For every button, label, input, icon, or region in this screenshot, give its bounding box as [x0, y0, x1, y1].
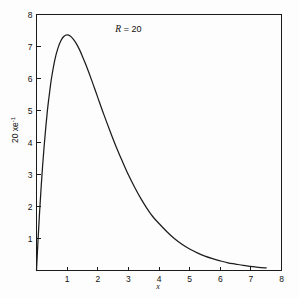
annotation-value: = 20: [121, 24, 141, 34]
x-tick-label: 6: [218, 274, 223, 284]
y-tick-label: 2: [28, 202, 33, 212]
figure-container: 12345678 12345678 R = 20 x 20 xe-1: [0, 0, 299, 298]
y-tick-label: 3: [28, 170, 33, 180]
x-tick-label: 1: [65, 274, 70, 284]
y-tick-label: 7: [28, 42, 33, 52]
x-tick-label: 5: [187, 274, 192, 284]
y-tick-label: 8: [28, 10, 33, 20]
R-parameter-label: R = 20: [114, 24, 141, 34]
y-tick-label: 4: [28, 138, 33, 148]
x-tick-label: 2: [95, 274, 100, 284]
x-tick-label: 8: [279, 274, 284, 284]
y-axis-title-base: 20 xe: [10, 122, 20, 143]
x-tick-label: 7: [249, 274, 254, 284]
x-axis-title: x: [155, 282, 160, 291]
svg-text:R = 20: R = 20: [114, 24, 141, 34]
chart-plot: 12345678 12345678 R = 20 x 20 xe-1: [0, 0, 299, 298]
chart-annotations: R = 20: [114, 24, 141, 34]
y-tick-label: 5: [28, 106, 33, 116]
y-tick-label: 6: [28, 74, 33, 84]
y-tick-label: 1: [28, 234, 33, 244]
y-axis-title-exponent: -1: [10, 116, 16, 122]
x-tick-label: 3: [126, 274, 131, 284]
figure-background: [0, 0, 299, 298]
